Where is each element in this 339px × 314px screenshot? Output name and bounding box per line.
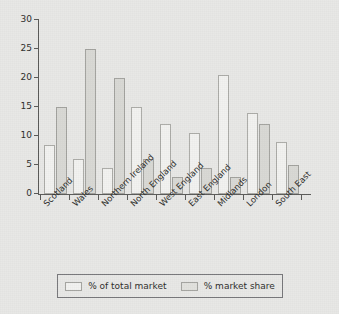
bar-group <box>272 20 301 194</box>
x-tick-mark <box>185 195 186 200</box>
x-tick-mark <box>156 195 157 200</box>
legend-item[interactable]: % market share <box>181 282 275 291</box>
bar-group <box>69 20 98 194</box>
x-tick-mark <box>301 195 302 200</box>
chart-legend: % of total market% market share <box>57 274 283 298</box>
x-tick-mark <box>214 195 215 200</box>
legend-label: % market share <box>204 282 275 291</box>
y-tick-mark <box>34 135 39 136</box>
y-tick-label: 5 <box>26 160 32 169</box>
y-tick-25: 25 <box>38 48 39 49</box>
y-tick-5: 5 <box>38 164 39 165</box>
y-tick-label: 10 <box>21 131 32 140</box>
x-tick-mark <box>98 195 99 200</box>
y-tick-20: 20 <box>38 77 39 78</box>
y-tick-10: 10 <box>38 135 39 136</box>
y-tick-mark <box>34 106 39 107</box>
y-tick-30: 30 <box>38 19 39 20</box>
y-tick-15: 15 <box>38 106 39 107</box>
legend-item[interactable]: % of total market <box>65 282 166 291</box>
bar-group <box>40 20 69 194</box>
bar-group <box>98 20 127 194</box>
y-tick-label: 0 <box>26 189 32 198</box>
legend-swatch-series-0 <box>65 282 82 291</box>
bar <box>44 145 55 194</box>
y-tick-mark <box>34 77 39 78</box>
y-tick-label: 30 <box>21 15 32 24</box>
y-tick-label: 25 <box>21 44 32 53</box>
x-tick-mark <box>69 195 70 200</box>
y-tick-mark <box>34 19 39 20</box>
legend-label: % of total market <box>88 282 166 291</box>
y-tick-0: 0 <box>38 193 39 194</box>
y-tick-label: 20 <box>21 73 32 82</box>
bar-chart: 051015202530 ScotlandWalesNorthern Irela… <box>0 0 339 314</box>
plot-area: 051015202530 ScotlandWalesNorthern Irela… <box>38 20 310 194</box>
legend-swatch-series-1 <box>181 282 198 291</box>
x-tick-mark <box>243 195 244 200</box>
bar <box>85 49 96 194</box>
y-axis-line <box>38 20 39 195</box>
x-tick-mark <box>127 195 128 200</box>
x-tick-mark <box>40 195 41 200</box>
bar-group <box>243 20 272 194</box>
y-tick-label: 15 <box>21 102 32 111</box>
x-tick-mark <box>272 195 273 200</box>
bar <box>276 142 287 194</box>
y-tick-mark <box>34 48 39 49</box>
y-tick-mark <box>34 193 39 194</box>
y-tick-mark <box>34 164 39 165</box>
